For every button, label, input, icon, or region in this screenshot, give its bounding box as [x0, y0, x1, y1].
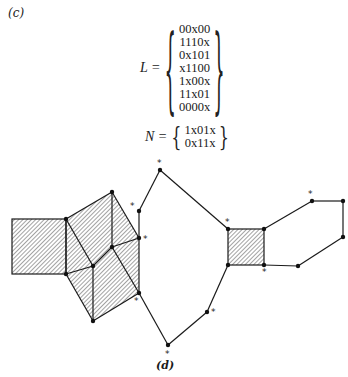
figure-part-d-label: (d) [156, 359, 174, 372]
svg-text:*: * [130, 201, 135, 211]
svg-text:*: * [143, 234, 148, 244]
svg-text:*: * [211, 307, 216, 317]
svg-text:*: * [262, 267, 267, 277]
svg-text:*: * [225, 217, 230, 227]
svg-text:*: * [157, 158, 162, 168]
svg-text:*: * [165, 349, 170, 359]
svg-text:*: * [134, 296, 139, 306]
star-marks: * * * * * * * * * [130, 158, 313, 359]
hatched-square-left [12, 219, 66, 274]
svg-text:*: * [308, 189, 313, 199]
hatched-square-right [228, 229, 264, 265]
cube-complex-diagram: * * * * * * * * * [0, 0, 348, 377]
